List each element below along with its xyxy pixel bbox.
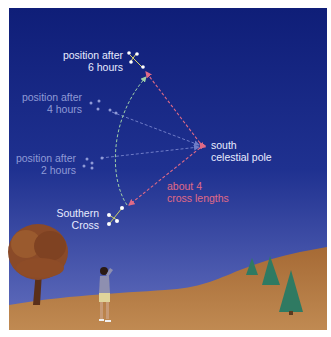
label-line: Southern: [56, 207, 99, 219]
label-line: 2 hours: [16, 164, 76, 176]
label-line: position after: [22, 91, 82, 103]
label-line: 6 hours: [63, 61, 123, 73]
label-line: 4 hours: [22, 103, 82, 115]
label-position-2h: position after 2 hours: [16, 152, 76, 176]
label-position-6h: position after 6 hours: [63, 49, 123, 73]
label-line: celestial pole: [211, 151, 272, 163]
label-line: Cross: [56, 219, 99, 231]
label-cross-lengths: about 4 cross lengths: [167, 180, 229, 204]
label-line: position after: [16, 152, 76, 164]
label-line: about 4: [167, 180, 229, 192]
label-line: south: [211, 139, 272, 151]
label-south-celestial-pole: south celestial pole: [211, 139, 272, 163]
label-line: cross lengths: [167, 192, 229, 204]
label-line: position after: [63, 49, 123, 61]
label-southern-cross: Southern Cross: [56, 207, 99, 231]
label-position-4h: position after 4 hours: [22, 91, 82, 115]
